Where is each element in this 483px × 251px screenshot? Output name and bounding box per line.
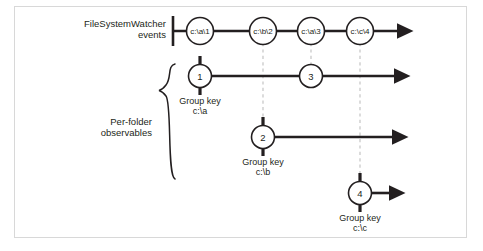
group-key-caption-c: Group keyc:\c — [320, 213, 400, 233]
observable-node-3[interactable]: 3 — [300, 65, 323, 88]
group-key-caption-a-value: c:\a — [193, 106, 208, 116]
observable-node-4[interactable]: 4 — [349, 182, 372, 205]
event-node-c4[interactable]: c:\c\4 — [347, 18, 374, 45]
observable-nodes: 1 3 2 4 — [189, 65, 372, 205]
group-key-caption-a: Group keyc:\a — [160, 96, 240, 116]
per-folder-brace — [159, 64, 175, 179]
event-node-b2[interactable]: c:\b\2 — [250, 18, 277, 45]
group-key-caption-c-value: c:\c — [353, 223, 367, 233]
group-key-caption-b-title: Group key — [242, 157, 284, 167]
event-node-a1-label: c:\a\1 — [190, 27, 210, 36]
per-folder-observables-label: Per-folderobservables — [55, 117, 152, 138]
group-key-caption-b-value: c:\b — [256, 167, 271, 177]
group-key-caption-c-title: Group key — [339, 213, 381, 223]
event-node-a3[interactable]: c:\a\3 — [298, 18, 325, 45]
group-key-caption-a-title: Group key — [179, 96, 221, 106]
event-node-c4-label: c:\c\4 — [350, 27, 370, 36]
observable-node-3-label: 3 — [308, 71, 313, 82]
figure-container: c:\a\1 c:\b\2 c:\a\3 c:\c\4 1 — [0, 0, 483, 251]
event-node-a3-label: c:\a\3 — [301, 27, 321, 36]
observable-node-2-label: 2 — [260, 132, 265, 143]
event-node-b2-label: c:\b\2 — [253, 27, 273, 36]
group-key-caption-b: Group keyc:\b — [223, 157, 303, 177]
event-row-title: FileSystemWatcherevents — [50, 19, 166, 40]
event-node-a1[interactable]: c:\a\1 — [187, 18, 214, 45]
observable-node-1[interactable]: 1 — [189, 65, 212, 88]
observable-node-2[interactable]: 2 — [252, 126, 275, 149]
observable-node-4-label: 4 — [357, 188, 362, 199]
node-stubs — [200, 56, 360, 212]
observable-node-1-label: 1 — [197, 71, 202, 82]
